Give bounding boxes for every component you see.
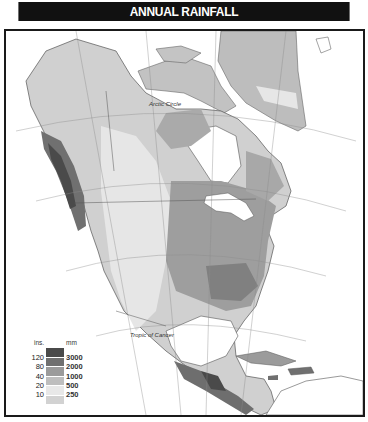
legend-ins-80: 80 (28, 362, 44, 371)
legend-unit-ins: ins. (34, 339, 44, 346)
legend-swatch-2000 (46, 358, 64, 368)
legend-mm-3000: 3000 (66, 353, 83, 362)
legend-ins-values: 120 80 40 20 10 (28, 353, 44, 399)
legend-mm-values: 3000 2000 1000 500 250 (66, 353, 83, 399)
legend-swatch-3000 (46, 348, 64, 358)
legend-ins-120: 120 (28, 353, 44, 362)
legend-mm-1000: 1000 (66, 372, 83, 381)
caribbean-islands (236, 351, 296, 366)
legend-mm-250: 250 (66, 390, 83, 399)
arctic-circle-label: Arctic Circle (149, 101, 181, 107)
legend-swatch-1000 (46, 367, 64, 377)
legend-unit-mm: mm (66, 339, 77, 346)
map-title: ANNUAL RAINFALL (18, 2, 349, 21)
legend-swatch-500 (46, 377, 64, 387)
legend-ins-10: 10 (28, 390, 44, 399)
legend-swatch-lowest (46, 396, 64, 406)
tropic-of-cancer-label: Tropic of Cancer (130, 332, 174, 338)
legend-swatch-250 (46, 386, 64, 396)
legend-mm-2000: 2000 (66, 362, 83, 371)
legend-ins-20: 20 (28, 381, 44, 390)
legend-mm-500: 500 (66, 381, 83, 390)
map-frame: Arctic Circle Tropic of Cancer ins. mm 1… (4, 29, 365, 417)
rainfall-legend: ins. mm 120 80 40 20 10 3000 2000 1000 5… (28, 339, 98, 409)
legend-ins-40: 40 (28, 372, 44, 381)
legend-swatches (46, 348, 64, 405)
